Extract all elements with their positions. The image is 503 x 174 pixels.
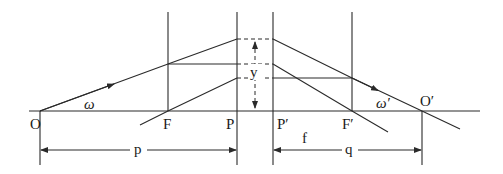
label-y: y [250,64,258,80]
label-p: p [134,141,142,157]
label-O-prime: O′ [420,93,434,109]
ray-direction-arrow-icon [40,84,114,111]
ray-direction-arrow-icon-2 [352,78,378,91]
label-P: P [226,116,234,132]
label-F: F [163,116,171,132]
label-omega: ω [84,96,95,112]
diagram-svg: y O F P P′ F′ O′ ω ω′ f p q [0,0,503,174]
label-F-prime: F′ [342,116,354,132]
optics-diagram: y O F P P′ F′ O′ ω ω′ f p q [0,0,503,174]
label-omega-prime: ω′ [376,95,391,111]
label-P-prime: P′ [277,116,289,132]
label-f: f [302,130,307,146]
chief-ray-image-side [273,39,460,129]
focal-ray-object-side [140,78,237,125]
label-O: O [30,116,41,132]
label-q: q [345,141,353,157]
focal-ray-image-side [273,64,388,132]
